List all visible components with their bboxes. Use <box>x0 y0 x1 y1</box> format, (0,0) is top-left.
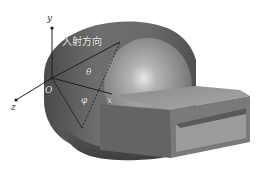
diagram-canvas: y z x O 入射方向 θ φ <box>0 0 256 173</box>
x-axis-label: x <box>107 96 112 105</box>
y-axis-arrow-icon <box>50 26 53 29</box>
model-figure <box>0 0 256 173</box>
theta-label: θ <box>86 68 91 77</box>
z-axis-label: z <box>11 103 16 112</box>
incident-direction-label: 入射方向 <box>62 37 102 47</box>
origin-label: O <box>45 86 52 95</box>
duct-side-face <box>100 104 171 158</box>
y-axis-label: y <box>47 14 52 23</box>
phi-label: φ <box>81 96 87 105</box>
origin-point-icon <box>50 76 53 79</box>
